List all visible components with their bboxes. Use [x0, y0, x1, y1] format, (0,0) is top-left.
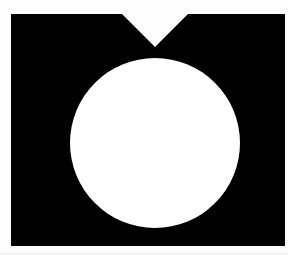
shape-figure-svg: Black rectangle with notched top and whi…: [0, 0, 288, 255]
inner-circle-shape: [70, 58, 240, 228]
figure-canvas: Black rectangle with notched top and whi…: [0, 0, 288, 255]
